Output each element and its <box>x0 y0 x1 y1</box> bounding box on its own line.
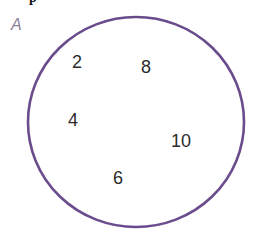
set-a-circle <box>0 0 256 239</box>
set-element: 8 <box>141 57 151 77</box>
set-element: 6 <box>113 168 123 188</box>
venn-diagram: p A 284106 <box>0 0 256 239</box>
set-element: 10 <box>171 131 191 151</box>
set-element: 4 <box>68 110 78 130</box>
set-a-label: A <box>11 16 22 34</box>
set-element: 2 <box>72 52 82 72</box>
